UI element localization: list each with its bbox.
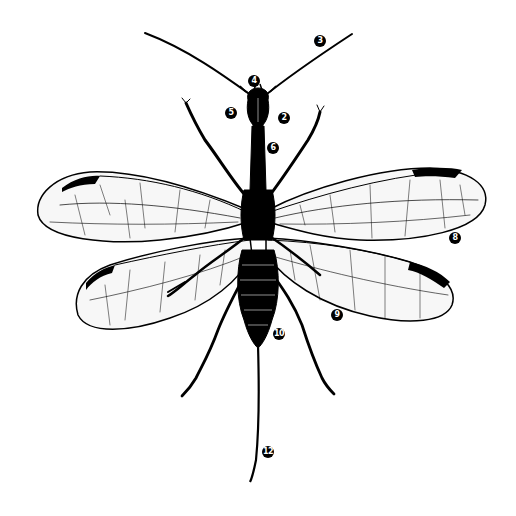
ovipositor — [250, 345, 259, 482]
label-10: 10 — [273, 328, 285, 340]
right-forewing — [268, 168, 486, 240]
label-5: 5 — [225, 107, 237, 119]
label-12: 12 — [262, 446, 274, 458]
label-3: 3 — [314, 35, 326, 47]
insect-diagram: 3 4 5 2 6 8 9 10 12 — [0, 0, 516, 516]
left-antenna — [145, 33, 255, 98]
label-2: 2 — [278, 112, 290, 124]
label-6: 6 — [267, 142, 279, 154]
label-8: 8 — [449, 232, 461, 244]
thorax — [241, 190, 275, 240]
label-9: 9 — [331, 309, 343, 321]
thorax-neck — [250, 126, 266, 190]
left-foreleg — [186, 103, 245, 195]
right-antenna — [262, 34, 352, 98]
right-foreleg — [270, 112, 320, 195]
label-4: 4 — [248, 75, 260, 87]
